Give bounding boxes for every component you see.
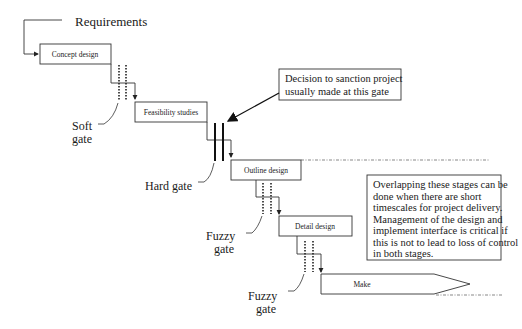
hard-gate-icon <box>215 123 223 161</box>
fuzzy-gate-icon <box>305 241 313 272</box>
overlap-line-6: this is not to lead to loss of control <box>373 237 518 248</box>
fuzzy-gate-leader-1 <box>246 216 262 233</box>
stage-gate-diagram: Requirements Concept design Soft gate Fe… <box>0 0 522 329</box>
soft-gate-leader <box>98 103 118 124</box>
stage-label: Detail design <box>295 222 335 231</box>
fuzzy-gate-leader-2 <box>288 274 304 291</box>
soft-gate-label-1: Soft <box>72 119 93 133</box>
overlap-line-4: Management of the design and <box>373 214 503 225</box>
connector-feasibility-to-outline <box>207 122 231 157</box>
overlap-line-3: timescales for project delivery. <box>373 202 502 213</box>
hard-gate-label: Hard gate <box>145 179 192 193</box>
overlap-line-2: done when there are short <box>373 191 482 202</box>
stage-make: Make <box>321 274 470 294</box>
stage-feasibility-studies: Feasibility studies <box>135 102 207 122</box>
overlap-line-1: Overlapping these stages can be <box>373 179 508 190</box>
fuzzy-gate-2-label-2: gate <box>256 302 276 316</box>
fuzzy-gate-1-label-1: Fuzzy <box>206 229 235 243</box>
overlap-line-5: implement interface is critical if <box>373 225 508 236</box>
stage-label: Concept design <box>52 50 99 59</box>
connector-concept-to-feasibility <box>111 64 135 99</box>
sanction-callout-line-2: usually made at this gate <box>285 86 389 97</box>
fuzzy-gate-2-label-1: Fuzzy <box>248 289 277 303</box>
stage-label: Make <box>353 280 371 289</box>
fuzzy-gate-icon <box>263 183 271 214</box>
stage-label: Feasibility studies <box>144 108 198 117</box>
sanction-arrow <box>228 93 279 121</box>
stage-concept-design: Concept design <box>40 44 111 64</box>
overlap-line-7: in both stages. <box>373 248 433 259</box>
connector-detail-to-make <box>297 236 321 272</box>
connector-outline-to-detail <box>256 180 279 214</box>
stage-outline-design: Outline design <box>231 160 301 180</box>
soft-gate-label-2: gate <box>72 132 92 146</box>
overlap-callout: Overlapping these stages can be done whe… <box>367 175 518 260</box>
stage-detail-design: Detail design <box>279 216 352 236</box>
stage-label: Outline design <box>244 166 288 175</box>
sanction-callout-line-1: Decision to sanction project <box>285 73 403 84</box>
hard-gate-leader <box>198 163 214 182</box>
fuzzy-gate-1-label-2: gate <box>214 242 234 256</box>
sanction-callout: Decision to sanction project usually mad… <box>228 69 403 121</box>
requirements-label: Requirements <box>75 14 147 29</box>
